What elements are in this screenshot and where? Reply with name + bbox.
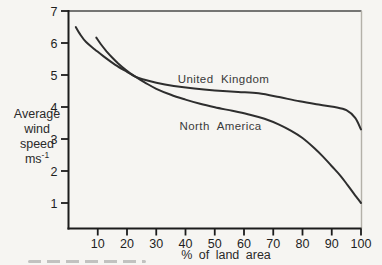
north-america-label: North America <box>180 120 262 132</box>
wind-speed-chart: 7654321 102030405060708090100 United Kin… <box>0 0 382 265</box>
y-axis-title: Average wind speed ms-1 <box>14 107 60 166</box>
y-axis-title-line-1: Average <box>14 107 60 121</box>
cropped-caption-remnant <box>28 260 146 263</box>
x-tick-label-100: 100 <box>351 237 372 251</box>
y-axis-title-unit: ms-1 <box>25 150 50 166</box>
figure: 7654321 102030405060708090100 United Kin… <box>0 0 382 265</box>
y-axis-title-line-3: speed <box>20 137 54 151</box>
y-tick-label-1: 1 <box>51 197 58 211</box>
y-tick-label-2: 2 <box>51 165 58 179</box>
united-kingdom-label: United Kingdom <box>178 73 269 85</box>
y-axis-title-line-2: wind <box>23 122 50 136</box>
x-axis-title: % of land area <box>181 248 271 262</box>
x-tick-label-10: 10 <box>91 237 105 251</box>
x-tick-label-20: 20 <box>120 237 134 251</box>
y-tick-label-5: 5 <box>51 69 58 83</box>
curves <box>76 27 361 203</box>
x-tick-label-80: 80 <box>296 237 310 251</box>
y-tick-label-6: 6 <box>51 37 58 51</box>
y-tick-label-7: 7 <box>51 5 58 19</box>
x-tick-label-30: 30 <box>149 237 163 251</box>
x-tick-label-90: 90 <box>325 237 339 251</box>
